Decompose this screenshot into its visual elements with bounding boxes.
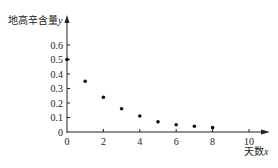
data-point xyxy=(174,123,178,127)
y-tick-label: 0.5 xyxy=(51,54,64,65)
data-point xyxy=(156,120,160,124)
data-point xyxy=(193,124,197,128)
x-tick-label: 8 xyxy=(210,136,215,147)
x-tick-label: 4 xyxy=(137,136,142,147)
data-point xyxy=(138,114,142,118)
data-point xyxy=(83,79,87,83)
x-tick-label: 0 xyxy=(65,136,70,147)
y-tick-label: 0.4 xyxy=(51,69,64,80)
x-tick-label: 2 xyxy=(101,136,106,147)
x-tick-label: 6 xyxy=(174,136,179,147)
y-tick-label: 0.3 xyxy=(51,83,64,94)
y-axis-label: 地高辛含量y xyxy=(8,14,63,26)
data-point xyxy=(102,95,106,99)
data-point xyxy=(65,58,69,62)
x-axis-label: 天数x xyxy=(244,145,269,157)
y-tick-label: 0.6 xyxy=(51,40,64,51)
x-axis-label-var: x xyxy=(263,146,269,157)
data-point xyxy=(211,126,215,130)
scatter-chart: 00.10.20.30.40.50.6 0246810 地高辛含量y 天数x xyxy=(0,0,278,168)
y-tick-label: 0.1 xyxy=(51,112,64,123)
y-axis-label-text: 地高辛含量 xyxy=(8,14,58,26)
y-axis-arrow-icon xyxy=(65,15,70,23)
y-tick-label: 0 xyxy=(58,127,63,138)
data-point xyxy=(120,107,124,111)
x-axis-label-text: 天数 xyxy=(244,145,264,157)
y-tick-label: 0.2 xyxy=(51,98,64,109)
x-axis-arrow-icon xyxy=(261,130,270,135)
y-axis-label-var: y xyxy=(57,15,63,26)
data-points xyxy=(65,58,214,130)
